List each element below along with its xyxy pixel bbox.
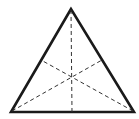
triangle-diagram — [0, 0, 139, 119]
triangle-outline — [11, 9, 134, 112]
median-from-top — [71, 10, 72, 112]
